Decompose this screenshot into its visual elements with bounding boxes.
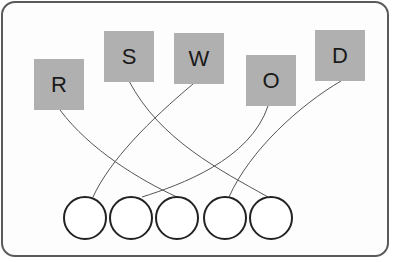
box-label: W xyxy=(189,46,210,72)
circle-3 xyxy=(156,197,198,239)
box-label: O xyxy=(262,68,279,94)
box-d: D xyxy=(315,30,365,81)
box-r: R xyxy=(34,59,84,110)
box-label: D xyxy=(332,43,348,69)
circle-4 xyxy=(204,197,246,239)
box-w: W xyxy=(174,33,224,84)
box-o: O xyxy=(246,55,296,106)
circle-2 xyxy=(110,197,152,239)
circle-5 xyxy=(250,197,292,239)
box-label: R xyxy=(51,72,67,98)
line-o-to-circle-2 xyxy=(142,106,268,197)
box-label: S xyxy=(122,44,137,70)
box-s: S xyxy=(104,31,154,82)
circle-1 xyxy=(64,197,106,239)
